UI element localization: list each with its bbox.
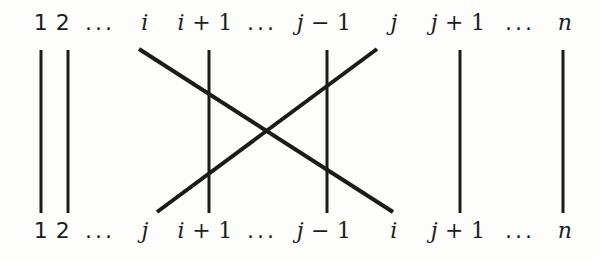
- transposition-figure: 12...ii + 1...j − 1jj + 1...n 12...ji + …: [0, 0, 599, 261]
- wire-j-to-i: [157, 49, 377, 212]
- bottom-index-label-2: ...: [85, 216, 115, 246]
- bottom-index-label-4: i + 1: [178, 216, 233, 246]
- bottom-index-label-5: ...: [247, 216, 277, 246]
- bottom-index-label-7: i: [390, 216, 397, 246]
- top-index-label-7: j: [390, 8, 397, 38]
- top-index-label-5: ...: [247, 8, 277, 38]
- top-index-label-6: j − 1: [297, 8, 352, 38]
- top-index-label-8: j + 1: [431, 8, 486, 38]
- bottom-index-label-0: 1: [34, 216, 48, 246]
- bottom-index-label-1: 2: [56, 216, 70, 246]
- top-index-label-10: n: [558, 8, 572, 38]
- top-index-row: 12...ii + 1...j − 1jj + 1...n: [0, 8, 599, 42]
- top-index-label-2: ...: [85, 8, 115, 38]
- top-index-label-3: i: [141, 8, 148, 38]
- top-index-label-4: i + 1: [178, 8, 233, 38]
- bottom-index-label-6: j − 1: [297, 216, 352, 246]
- top-index-label-0: 1: [34, 8, 48, 38]
- bottom-index-row: 12...ji + 1...j − 1ij + 1...n: [0, 216, 599, 250]
- diagonal-wires-group: [139, 49, 393, 212]
- bottom-index-label-3: j: [141, 216, 148, 246]
- top-index-label-9: ...: [505, 8, 535, 38]
- top-index-label-1: 2: [56, 8, 70, 38]
- bottom-index-label-8: j + 1: [431, 216, 486, 246]
- bottom-index-label-9: ...: [505, 216, 535, 246]
- vertical-wires-group: [41, 50, 563, 213]
- bottom-index-label-10: n: [558, 216, 572, 246]
